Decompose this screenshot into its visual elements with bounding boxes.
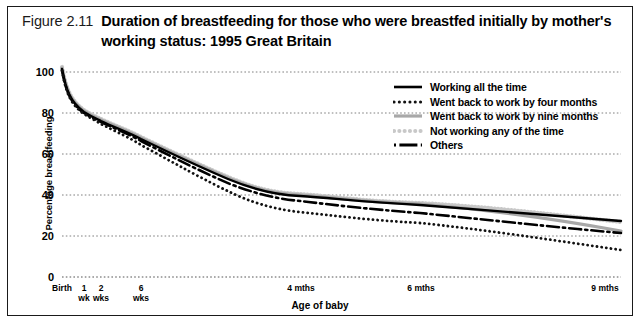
x-axis-title: Age of baby [0,300,640,311]
plot-area: Percentage breastfeeding 100 80 60 40 20… [0,0,640,323]
legend-label-went-back-to-work-by-four-months: Went back to work by four months [430,96,597,108]
figure-container: Figure 2.11 Duration of breastfeeding fo… [0,0,640,323]
y-tick-100: 100 [20,66,54,78]
legend-label-went-back-to-work-by-nine-months: Went back to work by nine months [430,110,598,122]
y-tick-20: 20 [20,230,54,242]
legend-key-dash-dot-black [393,138,423,152]
y-tick-0: 0 [20,271,54,283]
x-tick-6wks-line1: 6 [139,283,144,293]
x-tick-9mths: 9 mths [581,283,629,293]
x-tick-birth-line1: Birth [52,283,72,293]
legend-key-dotted-black [393,95,423,109]
y-tick-80: 80 [20,107,54,119]
legend-label-working-all-the-time: Working all the time [430,81,527,93]
x-tick-6mths: 6 mths [397,283,445,293]
legend-label-others: Others [430,139,463,151]
legend-item-went-back-to-work-by-nine-months: Went back to work by nine months [393,109,598,124]
chart-svg [0,0,640,323]
y-tick-60: 60 [20,148,54,160]
x-tick-4mths: 4 mths [277,283,325,293]
chart-legend: Working all the time Went back to work b… [393,80,598,153]
legend-item-working-all-the-time: Working all the time [393,80,598,95]
legend-item-went-back-to-work-by-four-months: Went back to work by four months [393,95,598,110]
legend-key-solid-black [393,80,423,94]
x-tick-1wk-line1: 1 [82,283,87,293]
legend-key-solid-gray [393,109,423,123]
x-tick-2wks-line1: 2 [99,283,104,293]
legend-label-not-working-any-of-the-time: Not working any of the time [430,125,564,137]
legend-key-dotted-gray [393,124,423,138]
legend-item-not-working-any-of-the-time: Not working any of the time [393,124,598,139]
y-tick-40: 40 [20,189,54,201]
legend-item-others: Others [393,138,598,153]
